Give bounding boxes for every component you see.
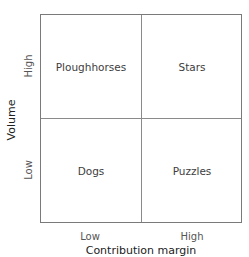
quadrant-label: Puzzles bbox=[173, 165, 212, 177]
menu-engineering-matrix: Ploughhorses Stars Dogs Puzzles bbox=[40, 14, 242, 223]
quadrant-puzzles: Puzzles bbox=[142, 119, 242, 222]
quadrant-label: Stars bbox=[178, 61, 205, 73]
x-tick-low: Low bbox=[80, 231, 100, 242]
x-axis-title: Contribution margin bbox=[86, 244, 197, 257]
quadrant-label: Ploughhorses bbox=[56, 61, 126, 73]
x-tick-high: High bbox=[181, 231, 204, 242]
y-axis-title: Volume bbox=[5, 100, 18, 141]
quadrant-ploughhorses: Ploughhorses bbox=[41, 15, 141, 118]
quadrant-stars: Stars bbox=[142, 15, 242, 118]
quadrant-dogs: Dogs bbox=[41, 119, 141, 222]
y-tick-high: High bbox=[23, 55, 34, 78]
y-tick-low: Low bbox=[23, 160, 34, 180]
quadrant-label: Dogs bbox=[78, 165, 105, 177]
